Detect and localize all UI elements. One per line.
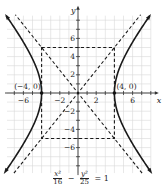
term2-denominator: 25 (80, 179, 89, 186)
y-tick-label: 6 (70, 34, 75, 43)
minus-sign: − (68, 174, 75, 183)
fraction-x: x² 16 (53, 171, 62, 186)
vertex-point (40, 91, 44, 95)
x-tick-label: −2 (54, 96, 65, 105)
x-axis-label: x (157, 96, 162, 105)
hyperbola-diagram: −6−226642−2−4−6 (−4, 0)(4, 0) x y (0, 0, 165, 186)
y-tick-label: −4 (64, 125, 75, 134)
vertex-point (113, 91, 117, 95)
y-tick-label: 4 (70, 52, 75, 61)
term1-denominator: 16 (53, 179, 62, 186)
y-tick-label: −2 (64, 107, 75, 116)
vertex-label: (−4, 0) (14, 82, 41, 91)
x-tick-label: −6 (18, 96, 29, 105)
equation: x² 16 − y² 25 = 1 (0, 171, 165, 186)
equals-one: = 1 (94, 174, 108, 183)
y-tick-label: 2 (70, 70, 75, 79)
x-tick-label: 6 (130, 96, 135, 105)
y-tick-label: −6 (64, 143, 75, 152)
y-axis-label: y (70, 6, 76, 15)
x-tick-label: 2 (94, 96, 99, 105)
vertex-label: (4, 0) (116, 82, 136, 91)
fraction-y: y² 25 (80, 171, 89, 186)
